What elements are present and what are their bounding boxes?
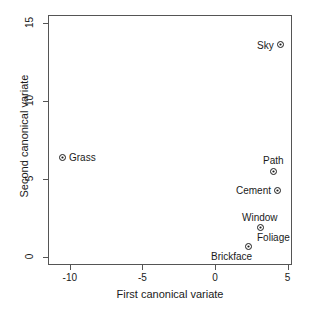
x-tick-mark — [70, 265, 71, 270]
x-tick-mark — [288, 265, 289, 270]
y-tick-label-text: 0 — [25, 254, 36, 260]
data-point-label: Path — [263, 155, 284, 166]
y-tick-mark — [43, 23, 48, 24]
data-point-label: Window — [242, 212, 278, 223]
y-tick-mark — [43, 101, 48, 102]
x-tick-label: -10 — [50, 272, 90, 283]
y-tick-label: 0 — [20, 251, 40, 262]
y-tick-label: 15 — [20, 17, 40, 28]
x-tick-mark — [215, 265, 216, 270]
y-tick-mark — [43, 257, 48, 258]
x-tick-label: 5 — [268, 272, 308, 283]
data-point-label: Cement — [236, 185, 271, 196]
x-tick-mark — [142, 265, 143, 270]
data-point-marker — [245, 243, 252, 250]
plot-frame — [48, 15, 292, 265]
x-axis-title: First canonical variate — [48, 288, 292, 300]
data-point-marker — [59, 154, 66, 161]
data-point-marker — [274, 187, 281, 194]
data-point-label: Brickface — [211, 251, 252, 262]
data-point-marker — [277, 41, 284, 48]
data-point-marker — [257, 224, 264, 231]
scatter-plot-figure: -10-505 051015 SkyPathCementWindowFoliag… — [0, 0, 310, 315]
y-tick-mark — [43, 179, 48, 180]
data-point-label: Sky — [257, 40, 274, 51]
data-point-label: Grass — [69, 152, 96, 163]
y-axis-title: Second canonical variate — [18, 56, 30, 216]
x-tick-label: -5 — [122, 272, 162, 283]
y-tick-label-text: 15 — [25, 17, 36, 28]
x-tick-label: 0 — [195, 272, 235, 283]
data-point-marker — [270, 168, 277, 175]
data-point-label: Foliage — [257, 232, 290, 243]
